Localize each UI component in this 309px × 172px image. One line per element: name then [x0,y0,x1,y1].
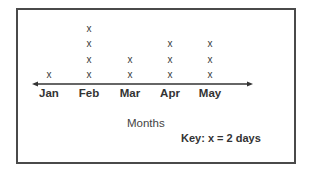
x-mark: x [83,24,95,34]
category-label-apr: Apr [150,87,190,99]
category-label-mar: Mar [110,87,150,99]
x-mark: x [204,39,216,49]
chart-key: Key: x = 2 days [181,132,261,145]
x-mark: x [164,55,176,65]
x-mark: x [204,70,216,80]
x-axis-title: Months [127,117,165,130]
category-label-jan: Jan [29,87,69,99]
left-arrow-icon [32,82,38,87]
x-mark: x [43,70,55,80]
x-mark: x [83,39,95,49]
x-mark: x [124,55,136,65]
x-mark: x [124,70,136,80]
x-mark: x [83,70,95,80]
category-label-feb: Feb [69,87,109,99]
x-mark: x [164,70,176,80]
x-mark: x [164,39,176,49]
x-mark: x [83,55,95,65]
right-arrow-icon [247,82,253,87]
category-label-may: May [190,87,230,99]
axis-line [0,0,309,172]
x-mark: x [204,55,216,65]
